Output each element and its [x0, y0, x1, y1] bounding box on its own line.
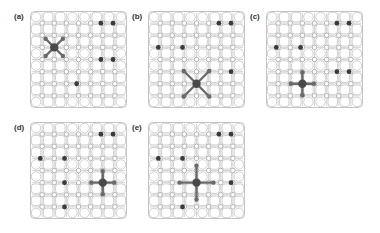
panel-label: (a)	[14, 13, 24, 21]
dopant-atom	[111, 21, 116, 26]
dopant-atom	[347, 21, 352, 26]
dopant-atom	[99, 57, 104, 62]
dopant-atom	[99, 132, 104, 137]
dopant-atom	[180, 156, 185, 161]
dopant-atom	[62, 156, 67, 161]
lattice-diagram	[148, 122, 245, 219]
dopant-atom	[335, 69, 340, 74]
panel-label: (c)	[250, 13, 260, 21]
dopant-atom	[229, 21, 234, 26]
dopant-atom	[180, 204, 185, 209]
dopant-atom	[74, 81, 79, 86]
dopant-atom	[229, 180, 234, 185]
dopant-atom	[62, 204, 67, 209]
dopant-atom	[274, 45, 279, 50]
dopant-atom	[99, 21, 104, 26]
dopant-atom	[298, 45, 303, 50]
dopant-atom	[229, 132, 234, 137]
lattice-diagram	[148, 11, 245, 108]
lattice-diagram	[30, 11, 127, 108]
dopant-atom	[217, 21, 222, 26]
dopant-atom	[111, 132, 116, 137]
dopant-atom	[347, 69, 352, 74]
lattice-diagram	[30, 122, 127, 219]
dopant-atom	[335, 21, 340, 26]
dopant-atom	[229, 69, 234, 74]
panel-label: (d)	[14, 124, 24, 132]
dopant-atom	[217, 132, 222, 137]
dopant-atom	[111, 57, 116, 62]
dopant-atom	[156, 45, 161, 50]
dopant-atom	[180, 45, 185, 50]
panel-label: (b)	[132, 13, 142, 21]
dopant-atom	[38, 156, 43, 161]
panel-label: (e)	[132, 124, 142, 132]
dopant-atom	[156, 156, 161, 161]
lattice-diagram	[266, 11, 363, 108]
dopant-atom	[62, 180, 67, 185]
